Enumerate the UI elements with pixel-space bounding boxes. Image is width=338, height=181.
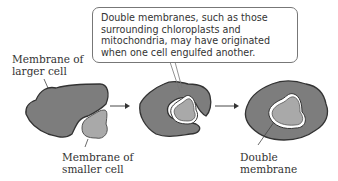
leader-line-smaller [85, 139, 88, 147]
label-smaller-cell: Membrane of smaller cell [62, 151, 133, 175]
label-larger-cell: Membrane of larger cell [12, 53, 83, 77]
explanation-callout: Double membranes, such as those surround… [92, 7, 298, 63]
arrow-1-head [125, 103, 130, 109]
leader-line-larger [44, 79, 48, 88]
label-double-membrane: Double membrane [240, 151, 297, 175]
arrow-2-head [234, 103, 239, 109]
